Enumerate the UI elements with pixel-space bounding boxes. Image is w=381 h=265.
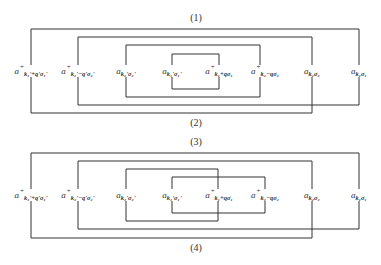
contraction-lines	[0, 0, 381, 265]
operator-label: ak₁σ₁	[350, 66, 368, 77]
operator-label: a+k₂'−q'σ₂'	[60, 190, 95, 201]
operator-label: a+k₁+qσ₁	[204, 66, 234, 77]
diagram-4-caption: (4)	[190, 242, 202, 253]
operator-label: ak₁'σ₁'	[161, 190, 182, 201]
operator-label: a+k₂'−q'σ₂'	[60, 66, 95, 77]
operator-label: ak₁'σ₁'	[161, 66, 182, 77]
operator-label: a+k₁'+q'σ₁'	[13, 190, 48, 201]
operator-label: ak₂'σ₂'	[115, 66, 136, 77]
contraction-1-upper-second	[78, 37, 312, 65]
diagram-2-caption: (2)	[190, 117, 202, 128]
contraction-2-lower-third	[126, 77, 260, 97]
operator-label: ak₂σ₂	[303, 190, 321, 201]
operator-label: a+k₂−qσ₂	[250, 66, 280, 77]
diagram-3-caption: (3)	[190, 136, 202, 147]
operator-label: ak₂'σ₂'	[115, 190, 136, 201]
operator-label: a+k₁+qσ₁	[204, 190, 234, 201]
operator-label: a+k₁'+q'σ₁'	[13, 66, 48, 77]
diagram-1-caption: (1)	[190, 12, 202, 23]
contraction-2-lower-inner	[172, 77, 219, 89]
contraction-1-upper-third	[126, 45, 260, 65]
contraction-3-upper-outer	[31, 153, 359, 189]
operator-label: a+k₂−qσ₂	[250, 190, 280, 201]
operator-label: ak₂σ₂	[303, 66, 321, 77]
operator-label: ak₁σ₁	[350, 190, 368, 201]
contraction-3-upper-second	[78, 161, 312, 189]
contraction-1-upper-outer	[31, 29, 359, 65]
